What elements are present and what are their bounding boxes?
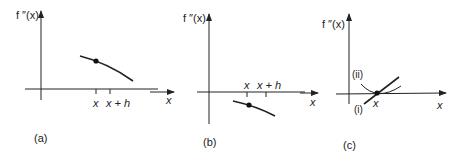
tick-label-x: x (92, 97, 99, 109)
panel-a: f ″(x) x x + h (a) (16, 9, 158, 144)
point-marker (374, 90, 379, 95)
curve-label-i: (i) (354, 104, 363, 115)
y-axis-label: f ″(x) (183, 12, 206, 24)
curve (80, 56, 133, 81)
tick-label-x: x (372, 97, 379, 109)
panel-b: f ″(x) x x + h (b) (183, 12, 305, 148)
point-marker (246, 102, 251, 107)
curve-label-ii: (ii) (352, 69, 363, 80)
tick-label-x: x (243, 79, 250, 91)
y-axis-label: f ″(x) (322, 18, 345, 30)
panel-caption: (c) (343, 139, 356, 151)
panel-caption: (b) (203, 136, 216, 148)
x-axis-label-b: x (309, 96, 316, 108)
curve-ii (361, 84, 401, 94)
tick-label-x-plus-h: x + h (256, 79, 281, 91)
x-axis-label: x (436, 99, 443, 111)
x-axis-continuation-ab: x (150, 92, 174, 106)
x-axis (336, 93, 446, 94)
point-marker (93, 58, 98, 63)
y-axis-label: f ″(x) (16, 9, 39, 21)
panel-c: x f ″(x) (ii) (i) x x (c) (300, 14, 446, 151)
tick-label-x-plus-h: x + h (105, 97, 130, 109)
x-axis-label: x (165, 94, 172, 106)
second-derivative-figure: f ″(x) x x + h (a) x f ″(x) x x + h (b) … (0, 0, 460, 159)
curve (233, 101, 275, 116)
panel-caption: (a) (34, 132, 47, 144)
